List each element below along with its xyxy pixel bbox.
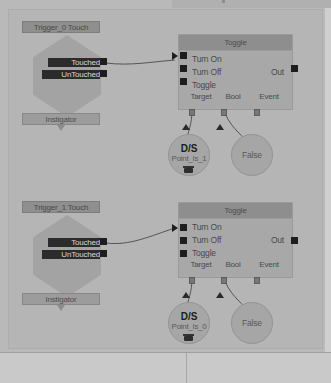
pin-untouched-1[interactable] — [100, 250, 107, 257]
top-strip-marker — [222, 0, 225, 3]
pin-out-1[interactable] — [291, 237, 298, 244]
bool-wire-arrow-icon-0 — [216, 124, 224, 130]
node-title-trigger-0-touch: Trigger_0 Touch — [22, 21, 100, 33]
bottom-pane-splitter[interactable] — [186, 353, 187, 383]
object-variable-label-1: Point_Is_0 — [162, 322, 216, 332]
object-variable-badge-1: D/S — [168, 311, 210, 322]
bool-wire-arrow-icon-1 — [216, 292, 224, 298]
pin-label-out-0[interactable]: Out — [271, 67, 284, 77]
bottom-divider — [0, 352, 331, 353]
node-title-trigger-1-touch: Trigger_1 Touch — [22, 201, 100, 213]
instigator-arrow-icon-1 — [57, 305, 65, 311]
object-variable-badge-0: D/S — [168, 143, 210, 154]
pin-label-event-1[interactable]: Event — [249, 260, 289, 270]
pin-label-turn-off-1[interactable]: Turn Off — [192, 235, 221, 245]
pin-turn-on-arrow-icon-1 — [172, 224, 178, 232]
pin-turn-off-0[interactable] — [180, 65, 187, 72]
lock-icon-1 — [184, 336, 193, 341]
pin-event-1[interactable] — [254, 277, 260, 284]
pin-event-0[interactable] — [254, 109, 260, 116]
pin-label-event-0[interactable]: Event — [249, 92, 289, 102]
pin-touched-1[interactable] — [100, 238, 107, 245]
pin-label-target-1[interactable]: Target — [183, 260, 219, 270]
pin-untouched-0[interactable] — [100, 70, 107, 77]
pin-label-untouched-1[interactable]: UnTouched — [42, 250, 100, 259]
instigator-arrow-icon-0 — [57, 125, 65, 131]
pin-label-toggle-1[interactable]: Toggle — [192, 248, 216, 258]
right-edge-strip — [325, 8, 331, 353]
pin-bool-0[interactable] — [221, 109, 227, 116]
kismet-graph-editor: Trigger_0 Touch Touched UnTouched Instig… — [0, 0, 331, 383]
pin-target-1[interactable] — [189, 277, 195, 284]
bottom-pane — [0, 352, 331, 383]
pin-label-bool-0[interactable]: Bool — [215, 92, 251, 102]
pin-turn-off-1[interactable] — [180, 237, 187, 244]
pin-label-untouched-0[interactable]: UnTouched — [42, 70, 100, 79]
pin-target-0[interactable] — [189, 109, 195, 116]
pin-label-out-1[interactable]: Out — [271, 235, 284, 245]
pin-turn-on-1[interactable] — [180, 224, 187, 231]
pin-toggle-input-0[interactable] — [180, 78, 187, 85]
pin-label-turn-on-0[interactable]: Turn On — [192, 54, 221, 64]
lock-icon-0 — [184, 168, 193, 173]
pin-label-toggle-0[interactable]: Toggle — [192, 80, 216, 90]
target-wire-arrow-icon-1 — [182, 292, 190, 298]
node-title-separator-0 — [179, 50, 292, 51]
node-title-toggle-1: Toggle — [179, 203, 292, 218]
pin-label-touched-1[interactable]: Touched — [48, 238, 100, 247]
pin-instigator-0[interactable]: Instigator — [22, 113, 100, 125]
top-toolbar-strip — [172, 0, 331, 8]
node-toggle-1[interactable]: Toggle Turn On Turn Off Toggle Out Targe… — [178, 202, 293, 278]
pin-label-target-0[interactable]: Target — [183, 92, 219, 102]
pin-label-turn-on-1[interactable]: Turn On — [192, 222, 221, 232]
target-wire-arrow-icon-0 — [182, 124, 190, 130]
pin-toggle-input-1[interactable] — [180, 250, 187, 257]
pin-label-bool-1[interactable]: Bool — [215, 260, 251, 270]
object-variable-label-0: Point_Is_1 — [162, 154, 216, 164]
node-title-toggle-0: Toggle — [179, 35, 292, 50]
pin-bool-1[interactable] — [221, 277, 227, 284]
pin-label-touched-0[interactable]: Touched — [48, 58, 100, 67]
pin-out-0[interactable] — [291, 65, 298, 72]
node-toggle-0[interactable]: Toggle Turn On Turn Off Toggle Out Targe… — [178, 34, 293, 110]
pin-turn-on-0[interactable] — [180, 52, 187, 59]
bool-variable-text-1: False — [231, 318, 273, 328]
bool-variable-text-0: False — [231, 150, 273, 160]
pin-touched-0[interactable] — [100, 58, 107, 65]
pin-label-turn-off-0[interactable]: Turn Off — [192, 67, 221, 77]
pin-instigator-1[interactable]: Instigator — [22, 293, 100, 305]
node-title-separator-1 — [179, 218, 292, 219]
pin-turn-on-arrow-icon-0 — [172, 52, 178, 60]
